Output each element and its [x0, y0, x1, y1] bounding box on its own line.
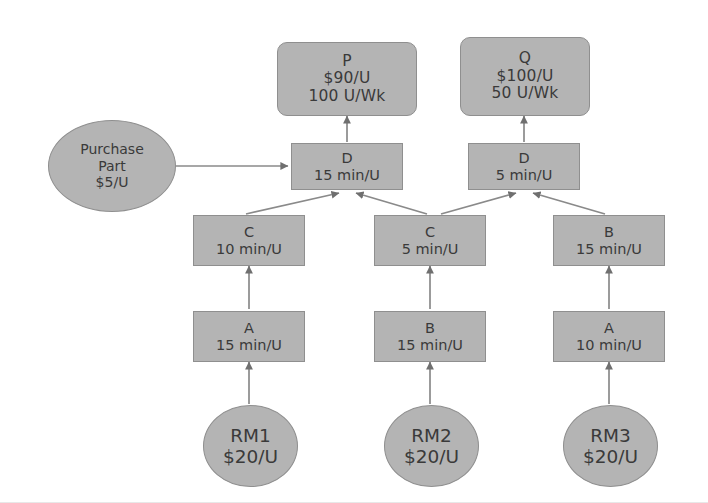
node-c-left[interactable]: C 10 min/U — [193, 215, 305, 266]
node-b-right[interactable]: B 15 min/U — [553, 215, 665, 266]
d-right-name: D — [518, 150, 529, 166]
node-d-right[interactable]: D 5 min/U — [468, 143, 580, 190]
edge-cleft-to-dleft — [246, 193, 339, 214]
rm1-price: $20/U — [223, 446, 278, 467]
node-d-left[interactable]: D 15 min/U — [291, 143, 403, 190]
b-right-time: 15 min/U — [576, 241, 642, 257]
rm3-name: RM3 — [590, 425, 631, 446]
node-product-q[interactable]: Q $100/U 50 U/Wk — [460, 37, 590, 116]
a-right-time: 10 min/U — [576, 337, 642, 353]
c-mid-time: 5 min/U — [402, 241, 459, 257]
node-a-right[interactable]: A 10 min/U — [553, 311, 665, 362]
product-q-price: $100/U — [496, 68, 553, 85]
rm1-name: RM1 — [230, 425, 271, 446]
node-b-mid[interactable]: B 15 min/U — [374, 311, 486, 362]
diagram-canvas: P $90/U 100 U/Wk Q $100/U 50 U/Wk Purcha… — [0, 0, 708, 503]
product-p-demand: 100 U/Wk — [309, 88, 386, 105]
product-q-demand: 50 U/Wk — [492, 85, 559, 102]
node-product-p[interactable]: P $90/U 100 U/Wk — [277, 42, 417, 116]
purchase-part-line2: Part — [98, 158, 126, 175]
c-left-time: 10 min/U — [216, 241, 282, 257]
rm3-price: $20/U — [583, 446, 638, 467]
a-left-time: 15 min/U — [216, 337, 282, 353]
d-right-time: 5 min/U — [496, 167, 553, 183]
edge-cmid-to-dright — [441, 193, 516, 214]
product-p-name: P — [342, 53, 352, 70]
node-rm1[interactable]: RM1 $20/U — [203, 405, 298, 487]
c-left-name: C — [244, 224, 254, 240]
b-mid-time: 15 min/U — [397, 337, 463, 353]
a-left-name: A — [244, 320, 254, 336]
node-c-mid[interactable]: C 5 min/U — [374, 215, 486, 266]
edge-bright-to-dright — [533, 193, 605, 214]
node-purchase-part[interactable]: Purchase Part $5/U — [48, 120, 176, 212]
node-a-left[interactable]: A 15 min/U — [193, 311, 305, 362]
purchase-part-line1: Purchase — [80, 141, 144, 158]
b-mid-name: B — [425, 320, 435, 336]
rm2-price: $20/U — [404, 446, 459, 467]
a-right-name: A — [604, 320, 614, 336]
product-p-price: $90/U — [323, 70, 370, 87]
d-left-name: D — [341, 150, 352, 166]
d-left-time: 15 min/U — [314, 167, 380, 183]
node-rm3[interactable]: RM3 $20/U — [563, 405, 658, 487]
edge-cmid-to-dleft — [356, 193, 427, 214]
product-q-name: Q — [519, 50, 531, 67]
b-right-name: B — [604, 224, 614, 240]
rm2-name: RM2 — [411, 425, 452, 446]
node-rm2[interactable]: RM2 $20/U — [384, 405, 479, 487]
purchase-part-price: $5/U — [96, 174, 129, 191]
c-mid-name: C — [425, 224, 435, 240]
